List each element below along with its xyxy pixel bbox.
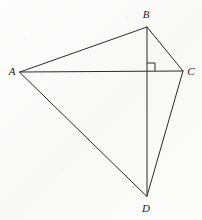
geometry-figure: A B C D <box>0 0 202 220</box>
vertex-label-a: A <box>9 66 16 77</box>
vertex-label-c: C <box>187 66 194 77</box>
diagonals <box>20 27 183 196</box>
segment-AC <box>20 71 183 72</box>
vertex-label-b: B <box>143 9 150 20</box>
figure-canvas <box>0 0 202 220</box>
vertex-label-d: D <box>142 203 150 214</box>
segment-AB <box>20 27 183 196</box>
right-angle-icon <box>147 63 155 71</box>
right-angle-marker-group <box>147 63 155 71</box>
quadrilateral-sides <box>20 27 183 196</box>
